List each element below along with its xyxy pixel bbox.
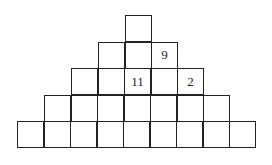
pyramid-cell	[177, 95, 204, 122]
pyramid-cell	[150, 95, 177, 122]
pyramid-cell: 11	[124, 68, 151, 95]
pyramid-cell	[98, 42, 125, 69]
pyramid-cell	[44, 121, 71, 148]
pyramid-cell	[17, 121, 44, 148]
pyramid-cell	[97, 95, 124, 122]
pyramid-cell	[203, 95, 230, 122]
pyramid-cell	[44, 95, 71, 122]
pyramid-cell	[176, 121, 203, 148]
pyramid-cell	[71, 68, 98, 95]
pyramid-cell	[125, 42, 152, 69]
pyramid-cell	[125, 15, 152, 42]
pyramid-cell	[150, 121, 177, 148]
pyramid-cell	[98, 68, 125, 95]
pyramid-cell	[203, 121, 230, 148]
pyramid-cell	[123, 121, 150, 148]
pyramid-cell: 2	[177, 68, 204, 95]
pyramid-cell	[71, 95, 98, 122]
pyramid-cell	[151, 68, 178, 95]
pyramid-cell	[70, 121, 97, 148]
number-pyramid: 9112	[0, 0, 272, 165]
pyramid-cell	[229, 121, 256, 148]
pyramid-cell	[124, 95, 151, 122]
pyramid-cell: 9	[151, 42, 178, 69]
pyramid-cell	[97, 121, 124, 148]
